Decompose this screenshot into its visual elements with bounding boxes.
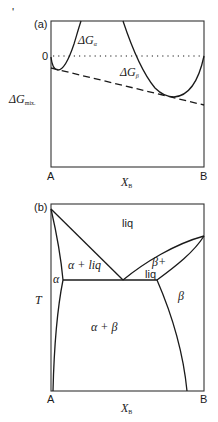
region-alpha-beta-label: α + β xyxy=(91,320,117,334)
delta-g-beta-label: ΔGβ xyxy=(119,65,139,79)
phase-diagram-figure: ' (a) 0 ΔGα ΔGβ ΔGmix. A B XB (b) xyxy=(0,0,218,422)
delta-g-alpha-curve xyxy=(51,21,81,70)
delta-g-mix-label: ΔGmix. xyxy=(8,92,36,106)
region-alpha-label: α xyxy=(53,272,60,286)
alpha-solvus-line xyxy=(53,280,63,391)
panel-b-phase-diagram: (b) liq α + liq β+ liq α β α + β T A B X… xyxy=(34,201,207,415)
region-alpha-liquid-label: α + liq xyxy=(68,258,101,272)
stray-mark: ' xyxy=(12,6,14,18)
panel-b-x-left-label: A xyxy=(47,393,55,405)
panel-a-tag: (a) xyxy=(34,18,47,30)
panel-a-x-left-label: A xyxy=(47,170,55,182)
region-beta-liquid-label-1: β+ xyxy=(151,255,166,269)
region-liquid-label: liq xyxy=(122,217,133,229)
delta-g-alpha-label: ΔGα xyxy=(77,33,98,47)
delta-g-beta-curve xyxy=(123,21,204,97)
panel-a-free-energy: (a) 0 ΔGα ΔGβ ΔGmix. A B XB xyxy=(8,18,207,189)
panel-a-x-right-label: B xyxy=(200,170,207,182)
region-beta-label: β xyxy=(177,289,184,303)
panel-b-x-right-label: B xyxy=(200,393,207,405)
region-beta-liquid-label-2: liq xyxy=(145,268,156,280)
temperature-axis-label: T xyxy=(35,293,43,307)
panel-a-x-axis-label: XB xyxy=(120,175,132,189)
zero-label: 0 xyxy=(42,50,48,62)
panel-b-tag: (b) xyxy=(34,201,47,213)
panel-b-x-axis-label: XB xyxy=(120,401,132,415)
